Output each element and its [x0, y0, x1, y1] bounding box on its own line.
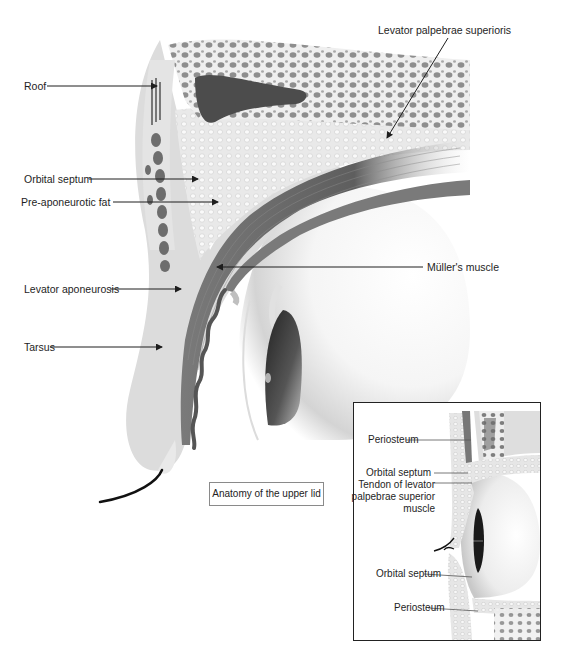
label-pre-aponeurotic-fat: Pre-aponeurotic fat: [21, 196, 110, 208]
inset-panel: Periosteum Orbital septum Tendon of leva…: [353, 402, 541, 641]
inset-label-tendon-line2: palpebrae superior: [352, 491, 435, 503]
inset-label-tendon-line3: muscle: [403, 503, 435, 515]
label-levator-palpebrae-superioris: Levator palpebrae superioris: [378, 24, 511, 36]
inset-label-periosteum-top: Periosteum: [368, 434, 419, 446]
figure-caption: Anatomy of the upper lid: [209, 482, 324, 506]
label-orbital-septum: Orbital septum: [24, 173, 92, 185]
label-levator-aponeurosis: Levator aponeurosis: [24, 283, 119, 295]
inset-label-orbital-septum-bottom: Orbital septum: [376, 568, 441, 580]
upper-lid-anatomy-figure: Roof Levator palpebrae superioris Orbita…: [0, 0, 563, 661]
inset-label-tendon-line1: Tendon of levator: [358, 479, 435, 491]
label-tarsus: Tarsus: [24, 341, 55, 353]
label-mullers-muscle: Müller's muscle: [427, 261, 499, 273]
inset-label-orbital-septum-top: Orbital septum: [366, 467, 431, 479]
label-roof: Roof: [24, 80, 46, 92]
inset-label-periosteum-bottom: Periosteum: [394, 602, 445, 614]
